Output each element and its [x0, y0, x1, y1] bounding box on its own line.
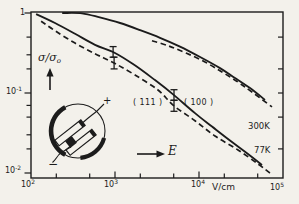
inset-circle-shade-left [51, 107, 65, 155]
series-300K-dashed [152, 41, 272, 107]
temp-77k-label: 77K [254, 146, 270, 155]
y-tick-label-1e-2: 10-2 [5, 167, 21, 175]
minus-terminal-label: − [48, 158, 58, 170]
orientation-111-label: ( 111 ) [133, 99, 162, 107]
inset-sample-diagram [51, 104, 105, 163]
x-tick-label-1e4: 104 [191, 181, 205, 189]
x-tick-label-1e5: 105 [270, 184, 284, 192]
x-axis-title: V/cm [212, 183, 235, 192]
temp-300k-label: 300K [248, 122, 270, 131]
arrowhead-right-icon [157, 151, 166, 158]
y-axis-title: σ/σo [38, 52, 61, 63]
y-tick-label-1: 1 [13, 9, 25, 17]
orientation-100-label: ( 100 ) [184, 99, 213, 107]
e-field-arrow [137, 151, 165, 158]
figure: 1 10-1 10-2 102 103 104 105 V/cm σ/σo ( … [0, 0, 299, 204]
arrowhead-up-icon [46, 68, 53, 77]
e-field-label: E [168, 145, 177, 157]
y-axis-arrow [46, 68, 53, 90]
y-tick-label-1e-1: 10-1 [6, 88, 22, 96]
x-tick-label-1e2: 102 [21, 181, 35, 189]
plus-terminal-label: + [103, 96, 111, 106]
wire-positive [83, 104, 104, 123]
x-tick-label-1e3: 103 [104, 181, 118, 189]
